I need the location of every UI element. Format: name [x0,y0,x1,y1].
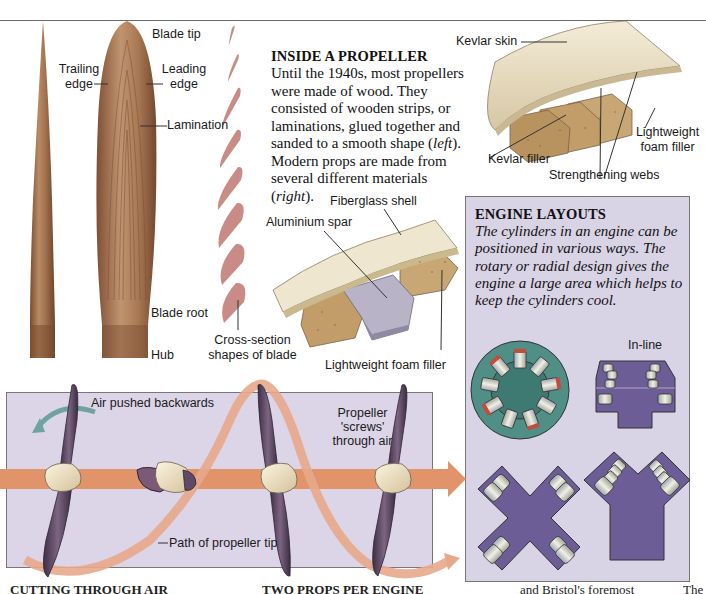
heading-fragment-far-right: The [683,584,703,594]
propeller-2 [137,462,196,493]
air-diagram [0,0,706,594]
propeller-1 [43,384,81,577]
heading-two-props-per-engine: TWO PROPS PER ENGINE [262,584,423,594]
label-path-of-tip: Path of propeller tip [169,536,277,551]
label-air-pushed-backwards: Air pushed backwards [91,396,214,411]
heading-fragment-right: and Bristol's foremost [520,584,634,594]
label-propeller-screws: Propeller 'screws' through air [325,406,400,448]
heading-cutting-through-air: CUTTING THROUGH AIR [10,584,168,594]
